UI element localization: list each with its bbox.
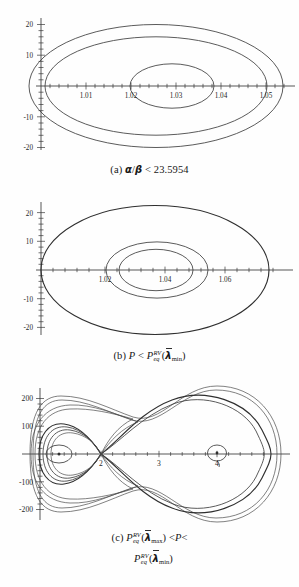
x-tick-label: 1.01 xyxy=(80,92,93,100)
relation-symbol: < xyxy=(145,164,151,175)
caption-label: (c) xyxy=(112,532,124,543)
lambda-bar-symbol: λ xyxy=(145,531,151,545)
x-tick-label: 1.05 xyxy=(260,92,273,100)
right-center-point xyxy=(216,452,219,455)
alpha-symbol: α xyxy=(125,164,132,175)
p-eq-scripts: RVeq xyxy=(153,350,161,363)
panel-b-plot: 20 10 -10 -20 1.02 1.04 1.06 xyxy=(0,190,299,340)
y-tick-label: -20 xyxy=(23,324,33,332)
panel-b-caption: (b) P < PRVeq(λmin) xyxy=(0,349,299,364)
panel-a-plot: 20 10 -10 -20 1.01 1.02 1.03 1.04 1.05 xyxy=(0,0,299,155)
y-tick-label: 20 xyxy=(26,21,34,29)
x-tick-label: 1.02 xyxy=(99,276,112,284)
y-tick-label: -10 xyxy=(23,114,33,122)
x-tick-label: 1.04 xyxy=(215,92,228,100)
y-tick-label: 200 xyxy=(22,394,34,403)
lambda-bar-symbol: λ xyxy=(165,349,171,363)
threshold-value: 23.5954 xyxy=(154,164,189,175)
x-tick-label: 3 xyxy=(157,459,161,468)
caption-label: (b) xyxy=(113,350,126,361)
x-tick-label: 2 xyxy=(99,459,103,468)
y-tick-label: -20 xyxy=(23,144,33,152)
close-paren: ) xyxy=(169,553,173,564)
caption-label: (a) xyxy=(110,164,122,175)
left-center-point xyxy=(58,453,61,456)
x-tick-label: 1.04 xyxy=(159,276,172,284)
panel-b: 20 10 -10 -20 1.02 1.04 1.06 (b) P < PRV… xyxy=(0,190,299,364)
lambda-subscript: min xyxy=(172,355,182,362)
y-tick-label: -100 xyxy=(19,478,33,487)
y-tick-label: -200 xyxy=(19,505,33,514)
y-tick-label: 20 xyxy=(26,210,34,218)
panel-b-svg: 20 10 -10 -20 1.02 1.04 1.06 xyxy=(0,190,299,340)
panel-c-caption-line1: (c) PRVeq(λmax) <P< xyxy=(0,531,299,546)
y-tick-label: 10 xyxy=(26,238,34,246)
panel-a-caption: (a) α/β < 23.5954 xyxy=(0,163,299,177)
p-eq-scripts: RVeq xyxy=(133,532,141,545)
y-tick-label: 10 xyxy=(26,52,34,60)
relation-symbol-right: < xyxy=(181,532,187,543)
figure-page: 20 10 -10 -20 1.01 1.02 1.03 1.04 1.05 (… xyxy=(0,0,299,587)
close-paren: ) xyxy=(163,532,167,543)
x-tick-label: 4 xyxy=(215,459,219,468)
beta-symbol: β xyxy=(135,164,142,175)
x-tick-label: 1.03 xyxy=(170,92,183,100)
y-tick-label: -10 xyxy=(23,296,33,304)
close-paren: ) xyxy=(182,350,186,361)
panel-a-svg: 20 10 -10 -20 1.01 1.02 1.03 1.04 1.05 xyxy=(0,0,299,155)
y-tick-label: 100 xyxy=(22,422,34,431)
lambda-subscript-max: max xyxy=(151,537,162,544)
p-eq-scripts: RVeq xyxy=(141,553,149,566)
relation-symbol: < xyxy=(138,350,144,361)
x-tick-label: 1.02 xyxy=(125,92,138,100)
panel-a: 20 10 -10 -20 1.01 1.02 1.03 1.04 1.05 (… xyxy=(0,0,299,177)
x-tick-label: 1.06 xyxy=(219,276,232,284)
panel-c-plot: 200 100 -100 -200 2 3 4 xyxy=(0,378,299,523)
p-eq-symbol: P xyxy=(126,532,133,543)
panel-c-svg: 200 100 -100 -200 2 3 4 xyxy=(0,378,299,523)
lambda-subscript-min: min xyxy=(159,558,169,565)
p-symbol: P xyxy=(129,350,136,361)
panel-c-caption-line2: PRVeq(λmin) xyxy=(0,552,299,567)
panel-c: 200 100 -100 -200 2 3 4 (c) PRVeq(λmax) … xyxy=(0,378,299,566)
lambda-bar-symbol: λ xyxy=(153,552,159,566)
p-eq-symbol: P xyxy=(134,553,141,564)
